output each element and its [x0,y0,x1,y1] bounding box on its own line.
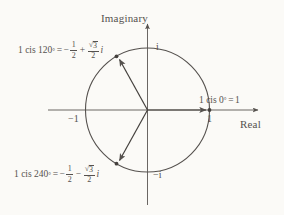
tick-label-one: 1 [207,114,212,124]
fraction-numerator: 1 [67,165,73,173]
imaginary-unit: i [97,170,100,180]
imaginary-unit: i [101,46,104,56]
tick-label-negative-one: −1 [68,114,79,124]
fraction-denominator: 2 [71,52,77,60]
minus-sign: − [63,46,68,56]
annotation-root-0-lhs: 1 cis 0 [199,96,224,106]
annotation-root-120-lhs: 1 cis 120 [18,46,52,56]
fraction-denominator: 2 [90,52,96,60]
annotation-root-240-lhs: 1 cis 240 [14,170,48,180]
point-root-0 [208,108,212,112]
radicand: 3 [93,41,98,51]
degree-symbol: ° [224,97,227,104]
annotation-root-120: 1 cis 120° = − 1 2 + √3 2 i [18,41,103,61]
equals-sign: = [53,170,58,180]
fraction-denominator: 2 [86,176,92,184]
annotation-root-0-rhs: 1 [235,96,240,106]
minus-sign: − [76,170,81,180]
equals-sign: = [228,96,233,106]
imaginary-axis-label: Imaginary [101,13,148,24]
tick-label-negative-i: −i [153,170,161,180]
equals-sign: = [57,46,62,56]
real-axis-label: Real [240,119,261,130]
annotation-root-240: 1 cis 240° = − 1 2 − √3 2 i [14,165,99,185]
annotation-root-0: 1 cis 0° = 1 [199,96,240,106]
degree-symbol: ° [52,48,55,55]
point-root-240 [115,162,119,166]
fraction-numerator: √3 [84,165,95,175]
vector-root-120 [120,60,148,111]
minus-sign: − [59,170,64,180]
vector-root-240 [120,110,148,161]
fraction-sqrt3-over-2: √3 2 [84,165,95,185]
fraction-denominator: 2 [67,176,73,184]
degree-symbol: ° [48,172,51,179]
radicand: 3 [89,165,94,175]
fraction-sqrt3-over-2: √3 2 [88,41,99,61]
plus-sign: + [80,46,85,56]
fraction-numerator: 1 [71,41,77,49]
fraction-one-half: 1 2 [70,41,77,60]
fraction-numerator: √3 [88,41,99,51]
tick-label-i: i [156,42,159,52]
point-root-120 [115,54,119,58]
fraction-one-half: 1 2 [66,165,73,184]
